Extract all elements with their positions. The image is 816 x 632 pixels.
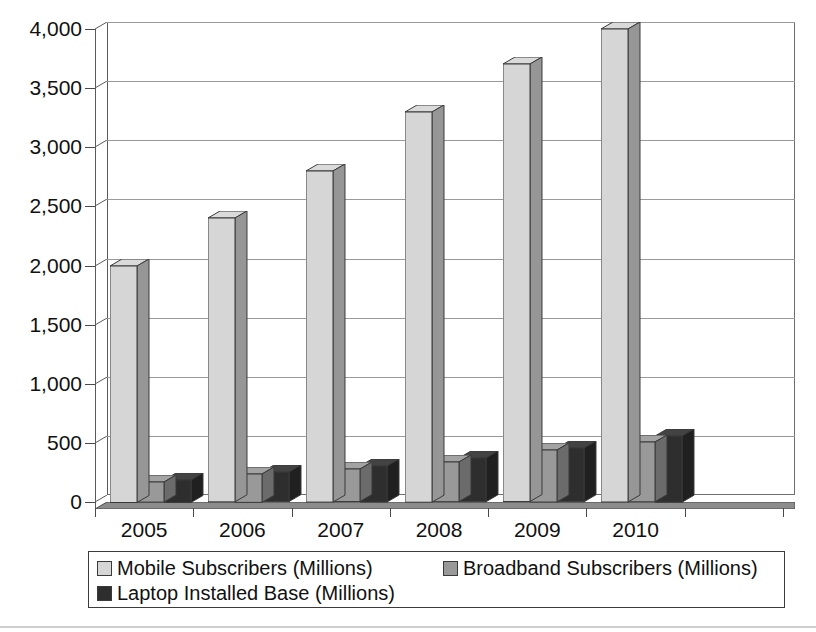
plot-area <box>95 22 795 502</box>
y-axis-depth-edge <box>95 81 107 88</box>
gridline <box>107 81 795 82</box>
y-axis-tick <box>85 266 95 267</box>
y-axis-depth-edge <box>95 22 107 29</box>
y-axis-depth-edge <box>95 140 107 147</box>
y-axis-tick <box>85 88 95 89</box>
y-axis-depth-edge <box>95 495 107 502</box>
x-axis-tick <box>685 508 686 517</box>
x-axis-tick <box>95 508 96 517</box>
chart-figure: 05001,0001,5002,0002,5003,0003,5004,000 … <box>0 0 816 632</box>
x-axis-tick <box>783 508 784 517</box>
y-axis-tick <box>85 29 95 30</box>
y-axis-tick <box>85 206 95 207</box>
x-axis-tick <box>193 508 194 517</box>
x-axis-label-2006: 2006 <box>197 518 287 542</box>
y-axis-tick-label: 0 <box>70 491 82 512</box>
y-axis-depth-edge <box>95 259 107 266</box>
y-axis-depth-edge <box>95 318 107 325</box>
x-axis-labels: 200520062007200820092010 <box>95 508 795 542</box>
y-axis-tick-label: 500 <box>47 432 82 453</box>
legend-item-laptop-installed-base[interactable]: Laptop Installed Base (Millions) <box>97 582 395 604</box>
y-axis-tick <box>85 325 95 326</box>
y-axis-labels: 05001,0001,5002,0002,5003,0003,5004,000 <box>0 22 82 502</box>
y-axis-tick <box>85 147 95 148</box>
x-axis-label-2009: 2009 <box>492 518 582 542</box>
x-axis-label-2007: 2007 <box>296 518 386 542</box>
gridline <box>107 199 795 200</box>
x-axis-label-2005: 2005 <box>99 518 189 542</box>
x-axis-tick <box>390 508 391 517</box>
x-axis-label-2010: 2010 <box>591 518 681 542</box>
legend-swatch-mobile-subscribers <box>97 561 112 576</box>
bar-2009-series-1 <box>503 64 530 502</box>
legend-row-2: Laptop Installed Base (Millions) <box>95 580 780 606</box>
legend-swatch-broadband-subscribers <box>443 561 458 576</box>
legend-swatch-laptop-installed-base <box>97 586 112 601</box>
legend-item-mobile-subscribers[interactable]: Mobile Subscribers (Millions) <box>97 557 373 579</box>
y-axis-depth-edge <box>95 436 107 443</box>
y-axis-tick-label: 2,500 <box>29 195 82 216</box>
y-axis-tick <box>85 443 95 444</box>
chart-legend: Mobile Subscribers (Millions) Broadband … <box>88 551 785 608</box>
bar-2007-series-1 <box>306 171 333 502</box>
y-axis-tick-label: 1,000 <box>29 373 82 394</box>
y-axis-depth-edge <box>95 377 107 384</box>
bar-2008-series-1 <box>405 112 432 502</box>
legend-label-laptop-installed-base: Laptop Installed Base (Millions) <box>117 582 395 604</box>
y-axis-tick <box>85 502 95 503</box>
y-axis-tick-label: 3,000 <box>29 136 82 157</box>
legend-item-broadband-subscribers[interactable]: Broadband Subscribers (Millions) <box>443 557 758 579</box>
legend-row-1: Mobile Subscribers (Millions) Broadband … <box>95 555 780 581</box>
legend-label-mobile-subscribers: Mobile Subscribers (Millions) <box>117 557 373 579</box>
y-axis-tick-label: 4,000 <box>29 18 82 39</box>
gridline <box>107 140 795 141</box>
x-axis-tick <box>292 508 293 517</box>
y-axis-tick-label: 2,000 <box>29 255 82 276</box>
x-axis-tick <box>586 508 587 517</box>
x-axis-label-2008: 2008 <box>394 518 484 542</box>
y-axis-tick <box>85 384 95 385</box>
y-axis-depth-edge <box>95 199 107 206</box>
bar-2010-series-1 <box>601 29 628 502</box>
x-axis-tick <box>488 508 489 517</box>
page-bottom-rule <box>0 626 816 628</box>
bar-2005-series-1 <box>110 266 137 503</box>
y-axis-tick-label: 1,500 <box>29 314 82 335</box>
y-axis-tick-label: 3,500 <box>29 77 82 98</box>
bar-2006-series-1 <box>208 218 235 502</box>
legend-label-broadband-subscribers: Broadband Subscribers (Millions) <box>463 557 758 579</box>
gridline <box>107 22 795 23</box>
